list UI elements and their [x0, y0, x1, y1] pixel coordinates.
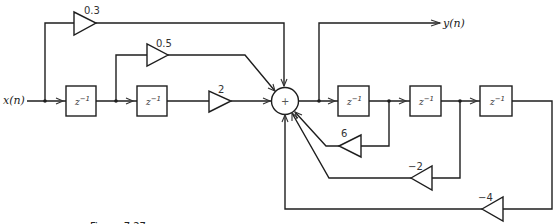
summer-plus-sign: + — [281, 96, 289, 107]
gain-6-label: 6 — [341, 128, 347, 139]
input-label: x(n) — [3, 94, 25, 107]
output-label: y(n) — [442, 17, 465, 30]
gain-neg2-label: −2 — [408, 161, 423, 172]
gain-0.5-label: 0.5 — [156, 38, 172, 49]
gain-2-label: 2 — [218, 84, 224, 95]
gain-neg4-output-wire — [285, 115, 482, 209]
gain-neg4-label: −4 — [478, 192, 493, 203]
figure-caption: Figure 7.27 — [90, 221, 146, 224]
feedback-neg4-wire — [503, 101, 552, 209]
gain-0.3-label: 0.3 — [84, 5, 100, 16]
signal-flow-diagram: x(n) 0.3 z−1 0.5 z−1 2 + y(n) z−1 z−1 — [0, 0, 553, 224]
